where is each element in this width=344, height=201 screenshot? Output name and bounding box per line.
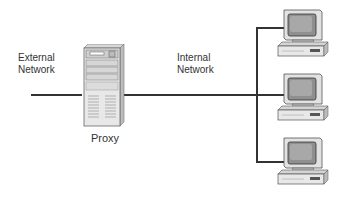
internal-network-label: Internal Network (177, 52, 214, 76)
client-computer-1-icon (276, 8, 330, 60)
internal-label-line1: Internal (177, 52, 214, 64)
external-link (31, 94, 82, 96)
external-label-line2: Network (18, 64, 55, 76)
client-computer-2-icon (276, 72, 330, 124)
external-network-label: External Network (18, 52, 55, 76)
internal-link (124, 94, 258, 96)
proxy-label: Proxy (91, 132, 119, 144)
external-label-line1: External (18, 52, 55, 64)
internal-label-line2: Network (177, 64, 214, 76)
client-computer-3-icon (276, 136, 330, 188)
proxy-server-icon (80, 44, 126, 128)
